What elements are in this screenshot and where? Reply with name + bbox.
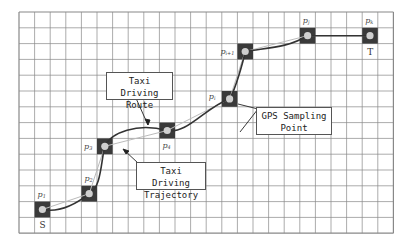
target-label: T bbox=[367, 47, 373, 57]
point-label-p3: p3 bbox=[84, 142, 92, 153]
point-label-p4: p4 bbox=[162, 141, 170, 152]
callout-route-line1: Taxi Driving bbox=[111, 75, 168, 99]
callout-gps-line2: Point bbox=[261, 122, 327, 134]
point-label-p1: p1 bbox=[38, 190, 46, 201]
point-label-pi: pi bbox=[209, 92, 216, 103]
gps-point-p2 bbox=[86, 190, 93, 197]
callout-route-line2: Route bbox=[111, 99, 168, 111]
callout-trajectory-line2: Trajectory bbox=[141, 189, 201, 201]
gps-point-p3 bbox=[101, 143, 108, 150]
callout-taxi-driving-route: Taxi Driving Route bbox=[106, 72, 173, 100]
grid-lines bbox=[19, 12, 393, 233]
point-label-pi+1: pi+1 bbox=[220, 47, 234, 58]
callout-trajectory-line1: Taxi Driving bbox=[141, 165, 201, 189]
callout-gps-line1: GPS Sampling bbox=[261, 110, 327, 122]
point-label-p2: p2 bbox=[84, 174, 92, 185]
gps-point-pi bbox=[226, 95, 233, 102]
callout-gps-sampling-point: GPS Sampling Point bbox=[256, 107, 332, 135]
gps-point-pj bbox=[304, 32, 311, 39]
callout-taxi-driving-trajectory: Taxi Driving Trajectory bbox=[136, 162, 206, 190]
gps-point-p1 bbox=[39, 206, 46, 213]
point-label-pj: pj bbox=[303, 16, 310, 27]
gps-point-pi+1 bbox=[242, 48, 249, 55]
trajectory-grid-diagram bbox=[0, 0, 412, 244]
gps-point-p4 bbox=[164, 127, 171, 134]
start-label: S bbox=[40, 220, 46, 230]
point-label-pk: pk bbox=[365, 16, 373, 27]
gps-point-pk bbox=[366, 32, 373, 39]
